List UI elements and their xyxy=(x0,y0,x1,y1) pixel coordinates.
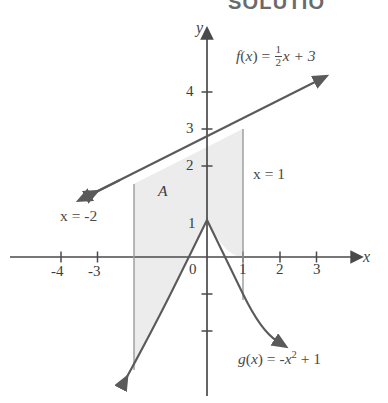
x-axis-label: x xyxy=(363,249,370,265)
f-coefficient-fraction: 12 xyxy=(275,44,283,68)
boundary-label-x-1: x = 1 xyxy=(253,166,285,182)
x-tick-label--3: -3 xyxy=(88,264,101,279)
graph-figure xyxy=(0,0,388,403)
g-body-lead: -x xyxy=(279,350,291,367)
g-tail: + 1 xyxy=(301,350,321,367)
region-label-a: A xyxy=(158,183,167,199)
y-tick-label-2: 2 xyxy=(186,158,194,173)
f-equals: = xyxy=(261,47,270,64)
y-tick-label-1: 1 xyxy=(188,216,196,231)
y-tick-label-3: 3 xyxy=(186,121,194,136)
g-exponent: 2 xyxy=(292,349,297,360)
x-tick-label-1: 1 xyxy=(239,262,247,277)
g-paren-close: ) xyxy=(258,350,263,367)
x-tick-label--4: -4 xyxy=(51,264,64,279)
boundary-label-x-minus-2: x = -2 xyxy=(60,208,97,224)
x-tick-label-3: 3 xyxy=(313,262,321,277)
function-label-g: g(x) = -x2 + 1 xyxy=(238,351,321,367)
f-frac-denominator: 2 xyxy=(275,57,283,69)
g-variable: x xyxy=(251,350,258,367)
function-label-f: f(x) = 12x + 3 xyxy=(236,44,315,68)
y-axis-label: y xyxy=(196,20,203,36)
y-tick-label-4: 4 xyxy=(186,84,194,99)
x-tick-label-2: 2 xyxy=(276,262,284,277)
g-equals: = xyxy=(267,350,276,367)
x-tick-label-0: 0 xyxy=(189,262,197,277)
f-tail: x + 3 xyxy=(283,47,316,64)
g-name: g xyxy=(238,350,246,367)
f-paren-close: ) xyxy=(252,47,257,64)
line-f-arrow-left xyxy=(88,180,120,196)
f-frac-numerator: 1 xyxy=(275,44,283,57)
page-heading: SOLUTIO xyxy=(228,0,325,14)
